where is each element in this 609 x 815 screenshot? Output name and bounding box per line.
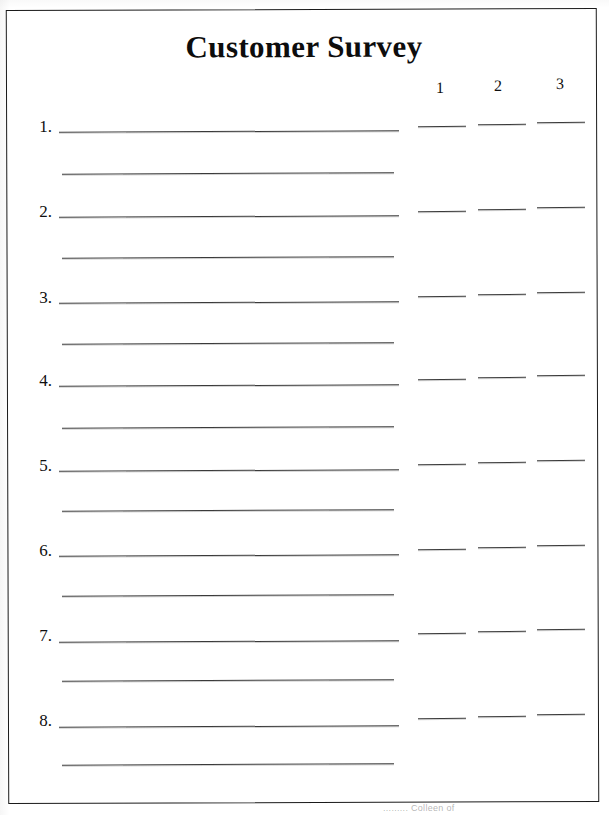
- item-answer-line-1[interactable]: [59, 384, 399, 387]
- rating-blank-1[interactable]: [418, 549, 466, 550]
- item-number: 8.: [24, 711, 52, 731]
- item-number: 7.: [24, 626, 52, 646]
- footer-watermark: ......... Colleen of: [383, 803, 609, 815]
- item-number: 4.: [24, 371, 52, 391]
- item-answer-line-1[interactable]: [59, 554, 399, 557]
- rating-blank-3[interactable]: [537, 122, 585, 123]
- rating-blank-2[interactable]: [478, 209, 526, 210]
- rating-blank-1[interactable]: [418, 296, 466, 297]
- item-answer-line-2[interactable]: [62, 172, 394, 175]
- rating-blank-1[interactable]: [418, 126, 466, 127]
- item-answer-line-1[interactable]: [59, 215, 399, 218]
- item-answer-line-2[interactable]: [62, 679, 394, 682]
- item-number: 5.: [24, 456, 52, 476]
- rating-blank-3[interactable]: [537, 460, 585, 461]
- rating-blank-2[interactable]: [478, 377, 526, 378]
- scan-vignette: [0, 0, 609, 815]
- survey-sheet: Customer Survey 1 2 3 1. 2. 3. 4.: [0, 0, 609, 815]
- item-answer-line-2[interactable]: [62, 763, 394, 766]
- rating-blank-2[interactable]: [478, 294, 526, 295]
- rating-blank-3[interactable]: [537, 207, 585, 208]
- rating-blank-2[interactable]: [478, 462, 526, 463]
- item-answer-line-2[interactable]: [62, 594, 394, 597]
- item-answer-line-1[interactable]: [59, 469, 399, 472]
- item-answer-line-1[interactable]: [59, 301, 399, 304]
- rating-blank-2[interactable]: [478, 547, 526, 548]
- item-answer-line-1[interactable]: [59, 130, 399, 133]
- item-answer-line-1[interactable]: [59, 640, 399, 643]
- item-number: 1.: [24, 117, 52, 137]
- rating-blank-2[interactable]: [478, 716, 526, 717]
- item-number: 6.: [24, 541, 52, 561]
- item-number: 3.: [24, 288, 52, 308]
- rating-blank-1[interactable]: [418, 633, 466, 634]
- rating-blank-3[interactable]: [537, 375, 585, 376]
- item-answer-line-2[interactable]: [62, 426, 394, 429]
- item-answer-line-2[interactable]: [62, 509, 394, 512]
- rating-blank-3[interactable]: [537, 714, 585, 715]
- rating-blank-3[interactable]: [537, 629, 585, 630]
- rating-blank-1[interactable]: [418, 379, 466, 380]
- rating-blank-3[interactable]: [537, 292, 585, 293]
- rating-blank-1[interactable]: [418, 464, 466, 465]
- item-answer-line-2[interactable]: [62, 256, 394, 259]
- rating-blank-2[interactable]: [478, 631, 526, 632]
- item-number: 2.: [24, 202, 52, 222]
- rating-blank-3[interactable]: [537, 545, 585, 546]
- item-answer-line-1[interactable]: [59, 725, 399, 728]
- rating-blank-1[interactable]: [418, 211, 466, 212]
- item-answer-line-2[interactable]: [62, 342, 394, 345]
- rating-blank-2[interactable]: [478, 124, 526, 125]
- rating-blank-1[interactable]: [418, 718, 466, 719]
- survey-item-row: 8.: [0, 0, 609, 84]
